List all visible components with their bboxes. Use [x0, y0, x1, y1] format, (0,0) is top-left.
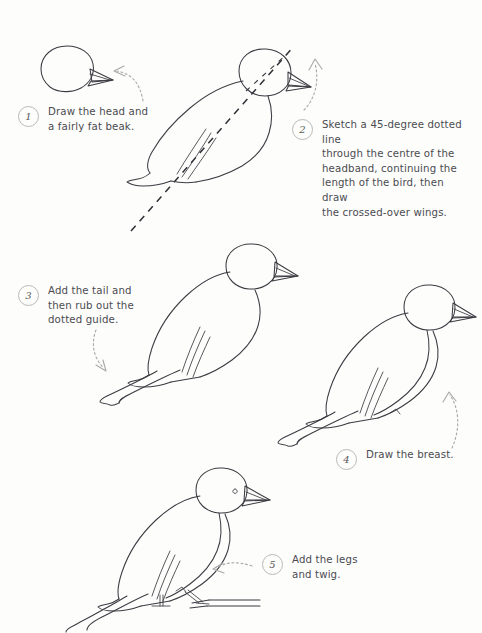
step-1-number-badge: 1	[18, 106, 39, 127]
step-4-arrow-icon	[443, 392, 458, 448]
step-2-caption: 2 Sketch a 45-degree dotted line through…	[292, 118, 470, 220]
step-4-drawing	[278, 285, 476, 446]
step-5-number-badge: 5	[262, 554, 283, 575]
step-4-text: Draw the breast.	[366, 448, 454, 463]
step-2-drawing	[127, 46, 311, 231]
step-4-caption: 4 Draw the breast.	[336, 448, 476, 470]
step-1-caption: 1 Draw the head and a fairly fat beak.	[18, 105, 168, 134]
step-3-text: Add the tail and then rub out the dotted…	[48, 284, 134, 328]
step-4-number-badge: 4	[336, 449, 357, 470]
step-1-text: Draw the head and a fairly fat beak.	[48, 105, 148, 134]
step-5-caption: 5 Add the legs and twig.	[262, 553, 402, 582]
step-3-caption: 3 Add the tail and then rub out the dott…	[18, 284, 158, 328]
step-2-number-badge: 2	[292, 119, 313, 140]
step-2-text: Sketch a 45-degree dotted line through t…	[322, 118, 470, 220]
step-5-drawing	[66, 468, 270, 632]
tutorial-page: .ink { fill:none; stroke:#3b3b42; stroke…	[0, 0, 482, 633]
step-1-arrow-icon	[114, 66, 143, 101]
step-5-text: Add the legs and twig.	[292, 553, 358, 582]
step-3-number-badge: 3	[18, 285, 39, 306]
step-3-arrow-icon	[93, 330, 106, 371]
step-1-drawing	[41, 46, 113, 92]
